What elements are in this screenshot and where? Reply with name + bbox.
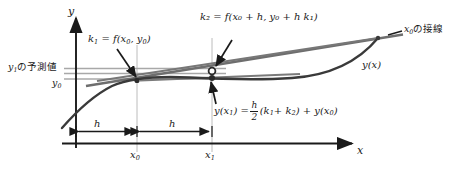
x-axis-label: x [357, 145, 363, 157]
label-step-h-first: h [94, 119, 100, 130]
label-k1-lhs-sub: 1 [94, 38, 98, 46]
formula-frac-numerator: h [250, 101, 258, 111]
label-y0-sub: 0 [57, 82, 61, 89]
formula-mid-sub2: 2 [291, 110, 295, 117]
formula-mid-sub1: 1 [270, 110, 274, 117]
label-predicted-prefix-sub: 1 [13, 66, 17, 73]
point-corrected-y-x1 [209, 75, 215, 81]
runge-kutta-heun-diagram: y x k1 = f(x0, y0) k₂ = f(x₀ + h, y₀ + h… [0, 0, 456, 178]
label-predicted-text: の予測値 [17, 61, 57, 72]
formula-lhs: y(x [214, 106, 229, 117]
label-tangent-prefix-sub: 0 [409, 28, 413, 35]
point-predicted-y1 [209, 68, 216, 75]
y-axis-label: y [68, 6, 74, 18]
tick-label-x0: x0 [130, 150, 140, 161]
label-k1: k1 = f(x0, y0) [88, 34, 151, 45]
formula-close: ) + y(x [296, 106, 330, 117]
tick-label-x0-base: x [130, 149, 136, 160]
label-step-h-second: h [169, 119, 175, 130]
formula-end-sub: 0 [330, 110, 334, 117]
label-k1-sub-y0: 0 [142, 38, 146, 46]
label-tangent-text: の接線 [413, 23, 443, 34]
formula-lhs-sub: 1 [229, 110, 233, 117]
label-k1-sub-x0: 0 [126, 38, 130, 46]
label-y0: y0 [52, 78, 61, 88]
label-k1-end: ) [147, 33, 151, 44]
label-curve-yx: y(x) [362, 60, 381, 71]
formula-frac-denominator: 2 [250, 112, 258, 122]
label-k1-rhs: = f(x [98, 33, 126, 44]
convergence-point-dot [376, 36, 380, 40]
formula-lhs-end: ) = [233, 106, 248, 117]
tick-label-x1-sub: 1 [211, 154, 215, 162]
tick-label-x0-sub: 0 [136, 154, 140, 162]
formula-end: ) [334, 106, 338, 117]
label-k2: k₂ = f(x₀ + h, y₀ + h k₁) [200, 12, 318, 23]
formula-fraction-h-over-2: h2 [250, 101, 258, 122]
label-k1-mid: , y [130, 33, 142, 44]
label-heun-formula: y(x1) = h2(k1 + k2) + y(x0) [214, 101, 338, 122]
tick-label-x1: x1 [205, 150, 215, 161]
point-x0-on-curve [134, 78, 139, 83]
tick-label-x1-base: x [205, 149, 211, 160]
label-tangent-line: x0の接線 [404, 24, 443, 34]
formula-mid: (k [260, 106, 270, 117]
label-predicted-value: y1の予測値 [8, 62, 57, 72]
formula-plus: + k [274, 106, 292, 117]
diagram-canvas [0, 0, 456, 178]
